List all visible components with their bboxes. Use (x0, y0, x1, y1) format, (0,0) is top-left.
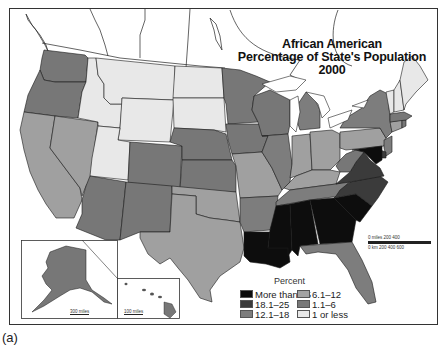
legend-swatch (297, 300, 310, 308)
state-NM (120, 182, 172, 240)
state-KS (180, 160, 236, 192)
alaska-inset (22, 241, 118, 319)
title-line-3: 2000 (232, 64, 432, 77)
state-WA (40, 50, 88, 82)
legend-item-6-12: 6.1–12 (297, 289, 348, 299)
legend-swatch (240, 300, 253, 308)
legend-swatch (240, 290, 253, 298)
state-MT (96, 58, 175, 104)
hawaii-scale-label: 100 miles (124, 309, 143, 315)
legend-swatch (297, 310, 310, 318)
legend-item-1-6: 1.1–6 (297, 299, 348, 309)
scale-miles-label: 0 miles 200 400 (368, 235, 400, 240)
legend-heading: Percent (274, 276, 305, 286)
state-OH (310, 130, 340, 170)
map-title: African American Percentage of State's P… (232, 38, 432, 77)
state-CO (128, 142, 182, 188)
legend-item-1-or-less: 1 or less (297, 309, 348, 319)
alaska-scale-label: 300 miles (70, 309, 89, 315)
figure-caption: (a) (2, 330, 18, 345)
state-SD (173, 98, 226, 132)
scale-bar-line (368, 241, 431, 244)
legend-swatch (297, 290, 310, 298)
state-WY (118, 98, 174, 142)
state-ND (173, 66, 224, 98)
scale-km-label: 0 km 200 400 600 (368, 245, 404, 250)
legend-swatch (240, 310, 253, 318)
